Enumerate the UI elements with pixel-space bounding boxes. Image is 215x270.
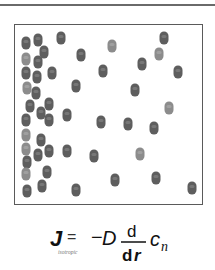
particle (155, 48, 164, 61)
derivative-denominator-d: d (122, 246, 132, 265)
particle (37, 134, 46, 147)
flux-equation: J = isotropic − D d d r c n (0, 218, 215, 268)
particle (22, 129, 31, 142)
concentration-variable: c (150, 228, 160, 250)
particle (34, 34, 43, 47)
concentration-subscript: n (161, 239, 168, 254)
particle (63, 109, 72, 122)
equals-sign: = (67, 228, 76, 245)
particle (33, 71, 42, 84)
particle (57, 32, 66, 45)
particle (188, 182, 197, 195)
particle (34, 56, 43, 69)
particle (152, 172, 161, 185)
particle (77, 49, 86, 62)
particle (22, 67, 31, 80)
particle (97, 116, 106, 129)
particle (34, 149, 43, 162)
particle (72, 184, 81, 197)
particle (160, 32, 169, 45)
particle (111, 174, 120, 187)
particle (108, 40, 117, 53)
particle (48, 67, 57, 80)
diffusion-coefficient: D (102, 227, 116, 249)
particle (22, 168, 31, 181)
particle (23, 156, 32, 169)
flux-symbol: J (50, 226, 63, 251)
particle (22, 143, 31, 156)
particle (45, 145, 54, 158)
particle (165, 102, 174, 115)
particle (150, 122, 159, 135)
particle (22, 53, 31, 66)
particle (38, 180, 47, 193)
particle (23, 82, 32, 95)
particle (136, 148, 145, 161)
particle (23, 185, 32, 198)
derivative-numerator: d (127, 222, 136, 241)
particle (26, 100, 35, 113)
particle (138, 58, 147, 71)
particle (63, 145, 72, 158)
particle (43, 166, 52, 179)
derivative-denominator-r: r (134, 246, 142, 265)
particle (45, 98, 54, 111)
flux-subscript: isotropic (58, 249, 78, 255)
particle (32, 87, 41, 100)
particle (131, 84, 140, 97)
particle (174, 66, 183, 79)
particle (22, 114, 31, 127)
particle (45, 114, 54, 127)
particle (99, 65, 108, 78)
particle (22, 37, 31, 50)
particle (37, 107, 46, 120)
minus-sign: − (91, 226, 103, 248)
particle (72, 80, 81, 93)
particle (124, 118, 133, 131)
particle (90, 150, 99, 163)
